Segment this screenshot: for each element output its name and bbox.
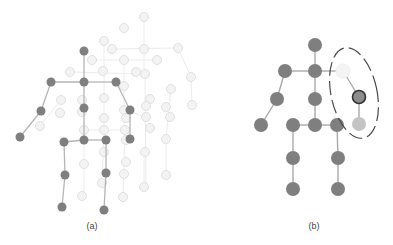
ghost-joint <box>99 67 108 76</box>
ghost-joint <box>108 45 117 54</box>
joint-left-hip <box>60 138 69 147</box>
ghost-joint <box>120 56 129 65</box>
ghost-joint <box>142 113 151 122</box>
joint-left-elbow <box>37 107 46 116</box>
skeleton-figure <box>0 0 393 245</box>
panel-a-caption: (a) <box>87 221 98 231</box>
ghost-joint <box>141 70 150 79</box>
joint-right-shoulder <box>112 78 121 87</box>
panel-b-caption: (b) <box>309 221 320 231</box>
ghost-joint <box>162 103 171 112</box>
ghost-joint <box>167 85 176 94</box>
ghost-joint <box>140 45 149 54</box>
joint-right-shoulder <box>336 64 350 78</box>
joint-left-foot <box>286 182 300 196</box>
ghost-joint <box>100 126 109 135</box>
ghost-joint <box>121 126 130 135</box>
ghost-joint <box>166 113 175 122</box>
joint-hip-center <box>80 136 89 145</box>
ghost-joint <box>88 56 97 65</box>
ghost-joint <box>162 135 171 144</box>
bone <box>62 175 65 207</box>
ghost-joint <box>153 56 162 65</box>
joint-head <box>80 47 89 56</box>
joint-right-elbow <box>353 91 366 104</box>
ghost-joint <box>141 148 150 157</box>
ghost-joint <box>119 193 128 202</box>
ghost-joint <box>122 114 131 123</box>
ghost-joint <box>146 124 155 133</box>
ghost-joint <box>57 96 66 105</box>
joint-right-hip <box>102 136 111 145</box>
joint-right-foot <box>331 182 345 196</box>
joint-head <box>308 38 322 52</box>
ghost-joint <box>187 73 196 82</box>
bone <box>64 142 65 175</box>
joint-spine <box>80 104 89 113</box>
joint-right-knee <box>331 151 345 165</box>
ghost-joint <box>36 122 45 131</box>
joint-right-knee <box>102 169 111 178</box>
ghost-joint <box>78 96 87 105</box>
ghost-joint <box>132 68 141 77</box>
bone <box>104 173 106 210</box>
joint-left-foot <box>58 203 67 212</box>
ghost-joint <box>66 68 75 77</box>
ghost-joint <box>120 170 129 179</box>
ghost-joint <box>100 148 109 157</box>
joint-left-elbow <box>270 92 284 106</box>
ghost-joint <box>162 171 171 180</box>
ghost-joint <box>100 94 109 103</box>
joint-hip-center <box>308 118 322 132</box>
panel-b-skeleton <box>254 38 386 196</box>
joint-right-elbow <box>126 106 135 115</box>
joint-left-hip <box>286 118 300 132</box>
ghost-joint <box>100 37 109 46</box>
joint-right-hand <box>352 117 366 131</box>
ghost-joint <box>78 192 87 201</box>
ghost-joint <box>140 183 149 192</box>
ghost-joint <box>56 109 65 118</box>
joint-right-foot <box>100 206 109 215</box>
ghost-poses <box>36 13 197 202</box>
ghost-joint <box>188 101 197 110</box>
bone <box>41 82 51 111</box>
joint-left-shoulder <box>278 64 292 78</box>
joint-left-hand <box>254 118 268 132</box>
ghost-joint <box>120 24 129 33</box>
joint-left-knee <box>61 171 70 180</box>
joint-left-knee <box>286 151 300 165</box>
joint-neck <box>80 78 89 87</box>
joint-spine <box>308 92 322 106</box>
joint-left-shoulder <box>47 78 56 87</box>
ghost-joint <box>142 102 151 111</box>
joint-neck <box>308 64 322 78</box>
ghost-joint <box>174 44 183 53</box>
joint-left-hand <box>16 133 25 142</box>
ghost-joint <box>140 13 149 22</box>
ghost-joint <box>122 158 131 167</box>
panel-a-skeleton <box>16 13 197 215</box>
ghost-joint <box>120 82 129 91</box>
ghost-joint <box>80 160 89 169</box>
joint-right-hand <box>126 135 135 144</box>
ghost-joint <box>100 114 109 123</box>
